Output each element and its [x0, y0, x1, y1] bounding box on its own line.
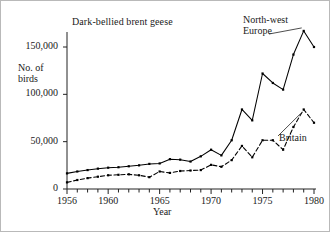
x-tick-label: 1965	[140, 195, 180, 206]
y-axis-ticks	[63, 47, 67, 189]
y-tick-label: 100,000	[26, 87, 59, 98]
x-tick-label: 1960	[88, 195, 128, 206]
x-tick-label: 1975	[243, 195, 283, 206]
chart-title: Dark-bellied brent geese	[72, 17, 173, 28]
north-west-europe-label: North-west Europe	[243, 15, 288, 37]
x-tick-label: 1980	[294, 195, 330, 206]
series-north-west-europe	[66, 30, 315, 175]
y-tick-label: 150,000	[26, 40, 59, 51]
series-britain	[66, 108, 315, 183]
y-tick-label: 0	[53, 182, 58, 193]
y-tick-label: 50,000	[31, 135, 59, 146]
x-axis-label: Year	[153, 207, 171, 218]
chart-series-group	[66, 30, 315, 184]
x-tick-label: 1970	[191, 195, 231, 206]
chart-figure: Dark-bellied brent geese No. of birds Ye…	[0, 0, 330, 232]
x-axis-ticks	[67, 189, 314, 194]
britain-label: Britain	[279, 133, 307, 144]
x-tick-label: 1956	[47, 195, 87, 206]
y-axis-label: No. of birds	[18, 63, 44, 85]
